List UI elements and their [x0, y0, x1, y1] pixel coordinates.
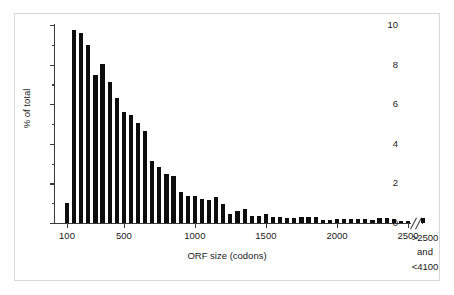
bar [243, 209, 247, 223]
x-axis-title: ORF size (codons) [0, 250, 454, 261]
bar [86, 45, 90, 223]
bar [186, 196, 190, 223]
bar [179, 192, 183, 223]
bar [129, 115, 133, 223]
x-tick-label: 100 [59, 231, 75, 242]
bar [385, 218, 389, 223]
y-tick-major [50, 25, 55, 26]
bar-overflow [421, 218, 425, 223]
x-tick [266, 223, 267, 228]
bar [136, 123, 140, 223]
x-axis-overflow-label-line: >2500 [399, 231, 451, 245]
bar [335, 219, 339, 223]
bar [328, 220, 332, 223]
x-tick-label: 2000 [326, 231, 347, 242]
x-tick [337, 223, 338, 228]
bar [278, 217, 282, 223]
x-tick-label: 500 [116, 231, 132, 242]
y-tick-major [50, 65, 55, 66]
bar [93, 75, 97, 224]
y-axis-title: % of total [21, 79, 32, 139]
bar [257, 216, 261, 223]
x-tick [408, 223, 409, 228]
bar [342, 219, 346, 223]
bar [115, 98, 119, 223]
y-tick-major [50, 144, 55, 145]
bar [292, 218, 296, 223]
bar [65, 203, 69, 223]
bar [100, 64, 104, 223]
figure-container: 0246810 1005001000150020002500 >2500and<… [0, 0, 454, 295]
bar [235, 211, 239, 223]
bar [399, 221, 403, 223]
bar [228, 214, 232, 223]
bar [157, 167, 161, 223]
bar [72, 30, 76, 223]
y-tick-label: 10 [387, 20, 398, 30]
y-tick-minor [52, 45, 56, 46]
bar [164, 174, 168, 223]
x-tick [195, 223, 196, 228]
y-tick-label: 8 [393, 60, 398, 70]
bar [200, 199, 204, 223]
bar [392, 219, 396, 223]
y-tick-major [50, 223, 55, 224]
bar [406, 221, 410, 223]
x-tick [124, 223, 125, 228]
y-tick-label: 4 [393, 139, 398, 149]
bar [221, 204, 225, 223]
bar [150, 161, 154, 223]
x-axis-line [54, 223, 423, 224]
y-tick-minor [52, 84, 56, 85]
bar [264, 214, 268, 223]
bar [108, 82, 112, 223]
bar [321, 220, 325, 223]
x-tick-label: 1500 [255, 231, 276, 242]
bar [314, 217, 318, 223]
bar [377, 218, 381, 223]
bar [143, 131, 147, 223]
bar [122, 112, 126, 223]
bar [363, 219, 367, 223]
bar [250, 216, 254, 223]
bar [79, 33, 83, 223]
bar [214, 197, 218, 223]
y-tick-major [50, 104, 55, 105]
bar [306, 217, 310, 223]
bar [370, 220, 374, 223]
y-tick-label: 2 [393, 179, 398, 189]
bar [349, 219, 353, 223]
bar [171, 176, 175, 223]
y-tick-major [50, 183, 55, 184]
bar [207, 200, 211, 223]
y-tick-minor [52, 164, 56, 165]
x-axis-overflow-label-line: <4100 [399, 260, 451, 274]
bar [299, 217, 303, 223]
y-tick-label: 6 [393, 99, 398, 109]
x-tick-label: 1000 [184, 231, 205, 242]
y-tick-minor [52, 203, 56, 204]
bar [193, 196, 197, 223]
bar [285, 218, 289, 223]
bar [271, 217, 275, 223]
x-tick [67, 223, 68, 228]
y-tick-minor [52, 124, 56, 125]
bar [356, 219, 360, 223]
